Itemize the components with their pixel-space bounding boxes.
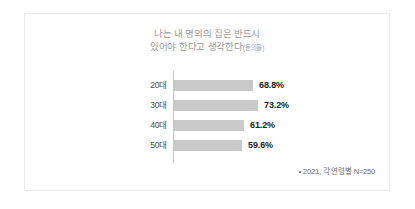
bar-fill-20dae: [174, 80, 253, 91]
footnote-text: 2021, 각 연령별 N=250: [303, 167, 375, 176]
bar-row-30dae: 30대 73.2%: [25, 100, 391, 111]
bar-row-50dae: 50대 59.6%: [25, 140, 391, 151]
bar-value-30dae: 73.2%: [264, 100, 289, 111]
bar-value-50dae: 59.6%: [248, 140, 273, 151]
chart-title-line-2-text: 있어야 한다고 생각한다: [150, 41, 243, 52]
bar-label-30dae: 30대: [109, 100, 167, 111]
bar-label-40dae: 40대: [109, 120, 167, 131]
bar-fill-30dae: [174, 100, 258, 111]
bar-label-20dae: 20대: [109, 80, 167, 91]
footnote-bullet-icon: •: [299, 167, 301, 176]
chart-footnote: •2021, 각 연령별 N=250: [299, 165, 375, 176]
chart-title-line-2: 있어야 한다고 생각한다(동의율): [25, 40, 389, 54]
bar-row-20dae: 20대 68.8%: [25, 80, 391, 91]
chart-title-suffix: (동의율): [243, 44, 264, 51]
bar-chart-plot: 20대 68.8% 30대 73.2% 40대 61.2% 50대 59.6%: [25, 71, 391, 163]
chart-title: 나는 내 명의의 집은 반드시 있어야 한다고 생각한다(동의율): [25, 27, 389, 54]
chart-title-line-1: 나는 내 명의의 집은 반드시: [25, 27, 389, 40]
bar-label-50dae: 50대: [109, 140, 167, 151]
chart-card: 나는 내 명의의 집은 반드시 있어야 한다고 생각한다(동의율) 20대 68…: [24, 13, 390, 191]
bar-fill-40dae: [174, 120, 244, 131]
bar-row-40dae: 40대 61.2%: [25, 120, 391, 131]
bar-value-20dae: 68.8%: [259, 80, 284, 91]
bar-fill-50dae: [174, 140, 242, 151]
bar-value-40dae: 61.2%: [250, 120, 275, 131]
